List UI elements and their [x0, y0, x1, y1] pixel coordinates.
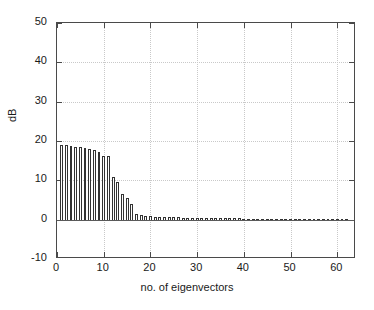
bar — [79, 147, 82, 219]
bar — [107, 156, 110, 220]
y-axis-title: dB — [6, 109, 18, 122]
bar-series — [57, 23, 354, 257]
x-tick-label-40: 40 — [237, 261, 249, 273]
y-tick-label-30: 30 — [35, 95, 47, 106]
y-tick-label--10: -10 — [31, 252, 47, 263]
bar — [112, 177, 115, 219]
x-tick-label-50: 50 — [283, 261, 295, 273]
x-axis-tick-labels: 0102030405060 — [56, 261, 355, 277]
bar — [121, 194, 124, 220]
x-tick-label-0: 0 — [53, 261, 59, 273]
y-tick-label-0: 0 — [41, 213, 47, 224]
bar — [98, 152, 101, 220]
bar — [102, 156, 105, 220]
x-tick-label-20: 20 — [143, 261, 155, 273]
y-tick-label-20: 20 — [35, 134, 47, 145]
zero-baseline — [57, 220, 354, 221]
bar — [130, 204, 133, 220]
figure-eigenvector-spectrum: 50403020100-10 dB 0102030405060 no. of e… — [0, 0, 374, 310]
y-tick-label-40: 40 — [35, 55, 47, 66]
bar — [126, 198, 129, 220]
bar — [70, 146, 73, 220]
y-tick-label-10: 10 — [35, 173, 47, 184]
bar — [116, 182, 119, 219]
bar — [93, 150, 96, 219]
x-tick-label-10: 10 — [97, 261, 109, 273]
bar — [60, 145, 63, 220]
y-tick-label-50: 50 — [35, 16, 47, 27]
x-axis-title: no. of eigenvectors — [0, 281, 374, 293]
plot-area — [56, 22, 355, 258]
bar — [74, 147, 77, 220]
bar — [84, 148, 87, 220]
x-tick-label-60: 60 — [330, 261, 342, 273]
bar — [65, 145, 68, 220]
bar — [88, 149, 91, 219]
x-tick-label-30: 30 — [190, 261, 202, 273]
y-axis-tick-labels: 50403020100-10 — [0, 22, 52, 258]
